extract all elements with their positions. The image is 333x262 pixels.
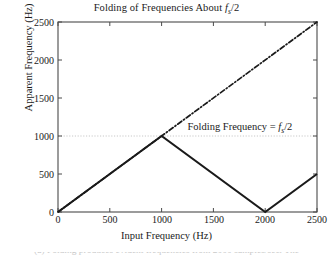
y-tick-label: 2000 (14, 56, 54, 66)
y-tick-label: 1000 (14, 132, 54, 142)
x-tick-label: 2500 (292, 215, 333, 225)
x-tick-label: 0 (33, 215, 83, 225)
folding-frequency-annotation: Folding Frequency = fs/2 (188, 121, 293, 135)
page-caption-clipped: (a) Folding produces evident frequencies… (0, 252, 333, 262)
x-tick-label: 2000 (240, 215, 290, 225)
chart-title-prefix: Folding of Frequencies About (94, 2, 225, 13)
x-tick-label: 500 (85, 215, 135, 225)
page-caption-text: (a) Folding produces evident frequencies… (34, 252, 299, 255)
chart-title-suffix: /2 (231, 2, 239, 13)
x-tick-label: 1500 (189, 215, 239, 225)
y-tick-label: 500 (14, 170, 54, 180)
figure-container: Folding of Frequencies About fs/2 Appare… (0, 0, 333, 262)
annotation-prefix: Folding Frequency = (188, 121, 279, 132)
annotation-suffix: /2 (284, 121, 292, 132)
y-tick-label: 1500 (14, 94, 54, 104)
data-series (58, 22, 317, 212)
x-tick-label: 1000 (137, 215, 187, 225)
y-tick-label: 2500 (14, 18, 54, 28)
apparent-frequency-line (58, 136, 317, 212)
x-tick-label-group: 0 500 1000 1500 2000 2500 (0, 215, 333, 229)
